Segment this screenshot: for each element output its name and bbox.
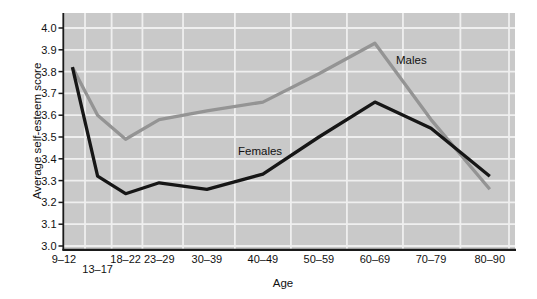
x-tick-label: 23–29: [144, 253, 175, 265]
x-tick-label: 18–22: [110, 253, 141, 265]
chart-canvas: 4.03.93.83.73.63.53.43.33.23.13.0 9–1213…: [0, 0, 537, 299]
x-tick-label: 9–12: [52, 253, 76, 265]
y-tick-label: 3.8: [41, 66, 56, 78]
y-tick-label: 3.2: [41, 196, 56, 208]
y-tick-label: 3.0: [41, 240, 56, 252]
x-tick-label: 50–59: [304, 253, 335, 265]
y-tick-label: 3.3: [41, 175, 56, 187]
x-axis-tick-labels: 9–1213–1718–2223–2930–3940–4950–5960–697…: [52, 253, 505, 275]
x-tick-label: 70–79: [416, 253, 447, 265]
y-axis-title: Average self-esteem score: [31, 63, 43, 200]
x-tick-label: 60–69: [360, 253, 391, 265]
y-tick-label: 3.7: [41, 87, 56, 99]
y-tick-label: 3.9: [41, 44, 56, 56]
x-tick-label: 13–17: [82, 263, 113, 275]
plot-area: [64, 13, 515, 249]
y-tick-label: 4.0: [41, 22, 56, 34]
self-esteem-by-age-figure: 4.03.93.83.73.63.53.43.33.23.13.0 9–1213…: [0, 0, 537, 299]
x-tick-label: 80–90: [474, 253, 505, 265]
y-tick-label: 3.4: [41, 153, 56, 165]
x-tick-label: 30–39: [192, 253, 223, 265]
x-axis-title: Age: [273, 277, 293, 289]
x-tick-label: 40–49: [248, 253, 279, 265]
y-axis-tick-labels: 4.03.93.83.73.63.53.43.33.23.13.0: [41, 22, 56, 252]
y-tick-label: 3.1: [41, 218, 56, 230]
females-series-label: Females: [238, 145, 282, 157]
y-tick-label: 3.6: [41, 109, 56, 121]
males-series-label: Males: [396, 54, 427, 66]
y-tick-label: 3.5: [41, 131, 56, 143]
